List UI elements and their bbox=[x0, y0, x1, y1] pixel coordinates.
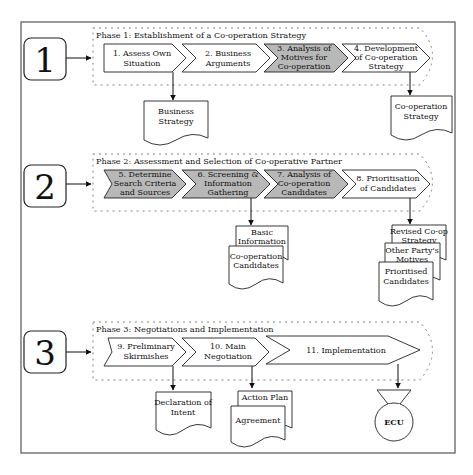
svg-text:Strategy: Strategy bbox=[369, 62, 404, 71]
phase-3-title: Phase 3: Negotiations and Implementation bbox=[96, 324, 274, 334]
svg-text:Candidates: Candidates bbox=[383, 277, 429, 286]
phase-1-title: Phase 1: Establishment of a Co-operation… bbox=[96, 30, 307, 40]
svg-text:Prioritised: Prioritised bbox=[385, 267, 428, 276]
step-1[interactable]: 1. Assess Own Situation bbox=[104, 44, 186, 72]
svg-text:1. Assess Own: 1. Assess Own bbox=[113, 49, 171, 58]
svg-text:Motives for: Motives for bbox=[281, 53, 327, 62]
svg-text:10. Main: 10. Main bbox=[210, 342, 246, 351]
phase-1-number: 1 bbox=[34, 40, 56, 80]
svg-text:3. Analysis of: 3. Analysis of bbox=[277, 44, 332, 53]
svg-text:Co-operation: Co-operation bbox=[278, 179, 331, 188]
svg-text:Candidates: Candidates bbox=[281, 188, 327, 197]
svg-text:Gathering: Gathering bbox=[208, 188, 249, 197]
svg-text:Skirmishes: Skirmishes bbox=[124, 352, 169, 361]
svg-text:Basic: Basic bbox=[251, 228, 273, 237]
svg-text:Search Criteria: Search Criteria bbox=[114, 179, 177, 188]
svg-text:Information: Information bbox=[204, 179, 252, 188]
phase-2-number: 2 bbox=[34, 167, 56, 207]
phase-3-number: 3 bbox=[34, 333, 56, 373]
svg-text:2. Business: 2. Business bbox=[205, 49, 251, 58]
svg-text:of Candidates: of Candidates bbox=[360, 184, 416, 193]
svg-text:7. Analysis of: 7. Analysis of bbox=[277, 170, 332, 179]
svg-text:Revised Co-op: Revised Co-op bbox=[390, 227, 448, 236]
step-9[interactable]: 9. Preliminary Skirmishes bbox=[104, 338, 186, 366]
svg-text:Negotiation: Negotiation bbox=[204, 352, 252, 361]
svg-text:11. Implementation: 11. Implementation bbox=[306, 346, 386, 355]
svg-text:Business: Business bbox=[158, 107, 194, 116]
svg-text:Action Plan: Action Plan bbox=[241, 393, 288, 402]
svg-text:Strategy: Strategy bbox=[404, 112, 439, 121]
step-5[interactable]: 5. Determine Search Criteria and Sources bbox=[104, 170, 186, 198]
svg-text:8. Prioritisation: 8. Prioritisation bbox=[356, 174, 420, 183]
svg-text:Information: Information bbox=[238, 237, 286, 246]
svg-text:5. Determine: 5. Determine bbox=[118, 170, 171, 179]
step-4[interactable]: 4. Development of Co-operation Strategy bbox=[342, 44, 430, 72]
svg-text:6. Screening &: 6. Screening & bbox=[197, 170, 258, 179]
svg-text:Situation: Situation bbox=[124, 59, 161, 68]
svg-text:Co-operation: Co-operation bbox=[230, 252, 283, 261]
co-operation-process-diagram: 1 Phase 1: Establishment of a Co-operati… bbox=[0, 0, 473, 475]
svg-text:Co-operation: Co-operation bbox=[395, 102, 448, 111]
svg-text:Agreement: Agreement bbox=[235, 416, 282, 425]
svg-text:9. Preliminary: 9. Preliminary bbox=[117, 342, 175, 351]
svg-text:Candidates: Candidates bbox=[233, 261, 279, 270]
svg-text:Strategy: Strategy bbox=[159, 117, 194, 126]
svg-text:Co-operation: Co-operation bbox=[278, 62, 331, 71]
phase-2-title: Phase 2: Assessment and Selection of Co-… bbox=[96, 156, 342, 166]
svg-text:of Co-operation: of Co-operation bbox=[355, 53, 418, 62]
svg-text:Arguments: Arguments bbox=[205, 59, 251, 68]
svg-text:Other Party's: Other Party's bbox=[385, 246, 439, 255]
svg-text:and Sources: and Sources bbox=[120, 188, 170, 197]
svg-text:4. Development: 4. Development bbox=[354, 44, 419, 53]
svg-text:ECU: ECU bbox=[384, 417, 403, 427]
svg-text:Intent: Intent bbox=[171, 408, 196, 417]
svg-text:Declaration of: Declaration of bbox=[154, 398, 213, 407]
